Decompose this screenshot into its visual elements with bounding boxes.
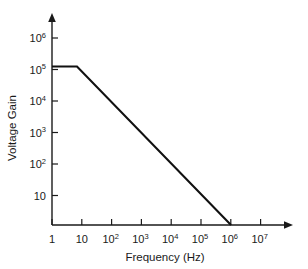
- chart-plot-area: 106 105 104 103 102 10 1 10 102 103: [0, 0, 308, 269]
- voltage-gain-vs-frequency-chart: 106 105 104 103 102 10 1 10 102 103: [0, 0, 308, 269]
- y-tick-label: 106: [30, 31, 46, 45]
- y-tick-label: 105: [30, 62, 46, 76]
- y-tick-label: 104: [30, 94, 46, 108]
- x-tick-label: 10: [76, 233, 88, 245]
- y-tick-label: 10: [34, 190, 46, 202]
- x-tick-label: 106: [222, 232, 238, 246]
- x-tick-label: 103: [132, 232, 148, 246]
- x-axis-arrow-icon: [284, 221, 293, 229]
- x-tick-label: 1: [49, 233, 55, 245]
- x-tick-label: 102: [102, 232, 118, 246]
- y-axis-title: Voltage Gain: [6, 95, 18, 161]
- x-tick-label: 104: [162, 232, 178, 246]
- y-tick-label: 102: [30, 157, 46, 171]
- x-tick-label: 107: [251, 232, 267, 246]
- y-tick-label: 103: [30, 125, 46, 139]
- y-axis-arrow-icon: [48, 13, 56, 22]
- x-axis-title: Frequency (Hz): [125, 251, 204, 263]
- x-tick-label: 105: [192, 232, 208, 246]
- gain-response-curve: [52, 67, 231, 226]
